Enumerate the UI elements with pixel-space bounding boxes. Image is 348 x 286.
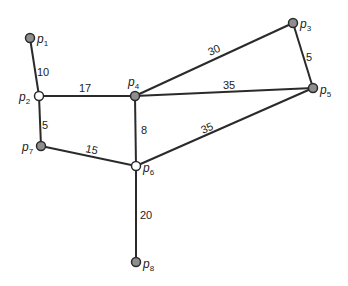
node-labels: p1 p2 p3 p4 p5 p6 p7 p8	[18, 17, 332, 273]
weight-p6-p8: 20	[140, 209, 152, 221]
weight-p4-p5: 35	[223, 79, 235, 91]
weighted-graph-diagram: 10 17 5 30 35 5 8 15 35 20 p1 p2 p3 p4 p…	[0, 0, 348, 286]
node-p1	[26, 34, 35, 43]
label-p2: p2	[18, 90, 31, 106]
weight-p1-p2: 10	[37, 66, 49, 78]
weight-p6-p5: 35	[199, 120, 215, 136]
edges	[30, 23, 313, 262]
weight-p3-p5: 5	[306, 51, 312, 63]
weight-p4-p6: 8	[141, 124, 147, 136]
nodes	[26, 19, 318, 267]
label-p3: p3	[299, 17, 312, 33]
edge-weights: 10 17 5 30 35 5 8 15 35 20	[37, 42, 312, 221]
edge-p4-p6	[135, 96, 136, 166]
label-p6: p6	[142, 161, 155, 177]
edge-p4-p3	[135, 23, 293, 96]
node-p6	[132, 162, 141, 171]
node-p7	[37, 142, 46, 151]
label-p7: p7	[21, 140, 34, 156]
node-p8	[132, 258, 141, 267]
weight-p7-p6: 15	[85, 142, 99, 156]
node-p4	[131, 92, 140, 101]
node-p5	[309, 84, 318, 93]
node-p3	[289, 19, 298, 28]
weight-p2-p7: 5	[42, 119, 48, 131]
edge-p6-p5	[136, 88, 313, 166]
label-p1: p1	[36, 32, 49, 48]
node-p2	[35, 92, 44, 101]
label-p4: p4	[127, 75, 140, 91]
label-p8: p8	[142, 257, 155, 273]
weight-p4-p3: 30	[206, 42, 222, 58]
edge-p2-p7	[39, 96, 41, 146]
weight-p2-p4: 17	[79, 82, 91, 94]
label-p5: p5	[319, 83, 332, 99]
